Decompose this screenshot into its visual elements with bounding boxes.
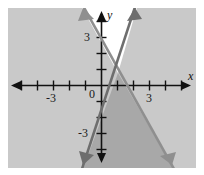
origin-label: 0 bbox=[89, 88, 95, 100]
y-axis-label: y bbox=[107, 9, 112, 21]
x-axis-label: x bbox=[188, 70, 193, 82]
graph-canvas bbox=[0, 0, 204, 175]
x-tick-label-neg-three: -3 bbox=[46, 92, 56, 104]
graph-figure: -3 3 0 3 -3 y x bbox=[0, 0, 204, 175]
y-tick-label-neg-three: -3 bbox=[78, 127, 88, 139]
y-tick-label-pos-three: 3 bbox=[84, 31, 90, 43]
x-tick-label-pos-three: 3 bbox=[146, 92, 152, 104]
